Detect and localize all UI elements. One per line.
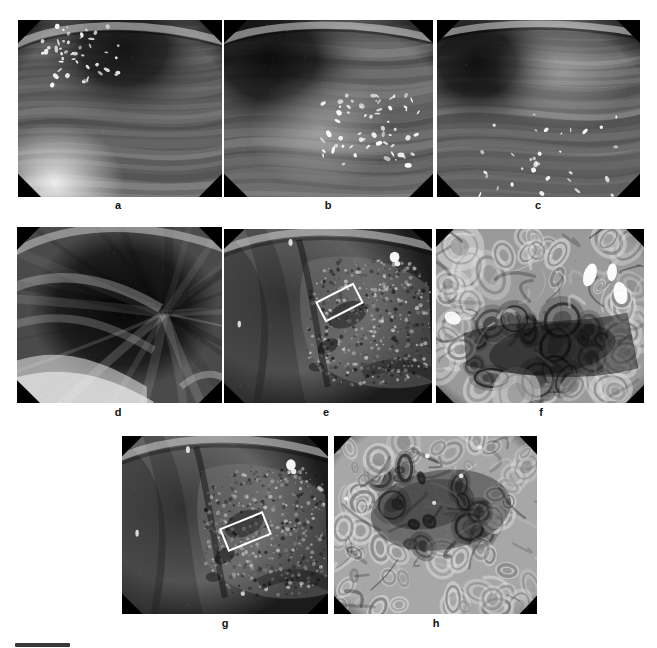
- panel-label-d: d: [103, 406, 133, 419]
- panel-label-f: f: [526, 406, 556, 419]
- endoscopy-panel-f: [436, 229, 644, 403]
- endoscopy-panel-h: [334, 436, 537, 614]
- endoscopy-panel-g: [122, 436, 328, 614]
- endoscopy-panel-b: [224, 20, 433, 197]
- endoscopy-panel-d: [17, 227, 222, 403]
- caption-rule: [15, 643, 70, 647]
- panel-label-g: g: [210, 617, 240, 630]
- panel-label-h: h: [421, 617, 451, 630]
- endoscopy-panel-e: [224, 229, 432, 403]
- endoscopy-panel-c: [437, 20, 640, 197]
- panel-label-e: e: [311, 406, 341, 419]
- endoscopy-panel-a: [18, 20, 222, 197]
- panel-label-c: c: [523, 199, 553, 212]
- panel-label-b: b: [313, 199, 343, 212]
- figure-canvas: abcdefgh: [0, 0, 657, 648]
- panel-label-a: a: [103, 199, 133, 212]
